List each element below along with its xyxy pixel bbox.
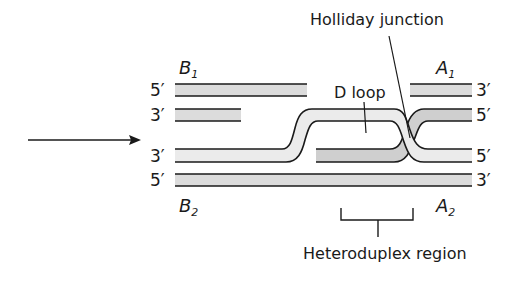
holliday-junction-label: Holliday junction (310, 10, 444, 29)
arrow-icon (28, 135, 141, 145)
recombination-diagram: Holliday junction D loop Heteroduplex re… (0, 0, 521, 282)
strand-bottom (175, 174, 472, 186)
heteroduplex-region-label: Heteroduplex region (303, 244, 467, 263)
a2-label: A2 (435, 195, 455, 219)
left-end-2: 3′ (150, 105, 165, 125)
right-end-4: 3′ (476, 170, 491, 190)
left-end-1: 5′ (150, 80, 165, 100)
b2-label: B2 (179, 195, 198, 219)
strand-b1-short (175, 109, 241, 121)
right-end-3: 5′ (476, 146, 491, 166)
b1-label: B1 (179, 57, 198, 81)
left-end-3: 3′ (150, 146, 165, 166)
right-end-2: 5′ (476, 105, 491, 125)
d-loop-label: D loop (334, 83, 386, 102)
heteroduplex-bracket (341, 208, 413, 237)
left-end-4: 5′ (150, 170, 165, 190)
strand-a1-top (410, 84, 472, 96)
diagram-svg: Holliday junction D loop Heteroduplex re… (0, 0, 521, 282)
right-end-1: 3′ (476, 80, 491, 100)
strand-b1-top (175, 84, 307, 96)
a1-label: A1 (435, 57, 455, 81)
